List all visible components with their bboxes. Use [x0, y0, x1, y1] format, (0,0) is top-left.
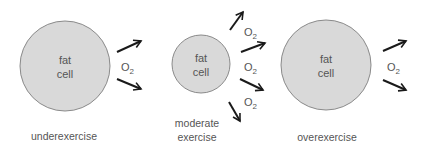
- fat-cell-circle: [172, 35, 230, 93]
- caption-overexercise: overexercise: [297, 131, 357, 143]
- fat-cell-oxygen-diagram: fat cell O2 underexercise fat cell O2 O2…: [0, 0, 425, 154]
- arrow-up-icon: [117, 41, 141, 52]
- cell-label-line2: cell: [318, 67, 335, 79]
- cell-label-line1: fat: [195, 52, 207, 64]
- arrow-down-right-icon: [240, 79, 263, 90]
- arrow-up-icon: [230, 12, 243, 30]
- caption-underexercise: underexercise: [31, 130, 97, 142]
- cell-label-line2: cell: [193, 66, 210, 78]
- arrow-up-right-icon: [241, 43, 265, 52]
- o2-label: O2: [244, 61, 258, 76]
- fat-cell-circle: [281, 20, 371, 110]
- caption-moderate-line1: moderate: [175, 117, 220, 129]
- arrow-down-icon: [229, 102, 240, 121]
- o2-label: O2: [121, 61, 135, 76]
- fat-cell-circle: [20, 21, 110, 111]
- cell-label-line1: fat: [320, 53, 332, 65]
- panel-underexercise: fat cell O2 underexercise: [20, 21, 141, 142]
- cell-label-line2: cell: [57, 68, 74, 80]
- cell-label-line1: fat: [59, 54, 71, 66]
- panel-moderate-exercise: fat cell O2 O2 O2 moderate exercise: [172, 12, 265, 143]
- arrow-down-icon: [117, 79, 141, 89]
- o2-label: O2: [244, 26, 258, 41]
- o2-label: O2: [244, 96, 258, 111]
- o2-label: O2: [387, 61, 401, 76]
- caption-moderate-line2: exercise: [177, 131, 216, 143]
- panel-overexercise: fat cell O2 overexercise: [281, 20, 406, 143]
- arrow-up-icon: [383, 41, 406, 51]
- arrow-down-icon: [383, 80, 406, 90]
